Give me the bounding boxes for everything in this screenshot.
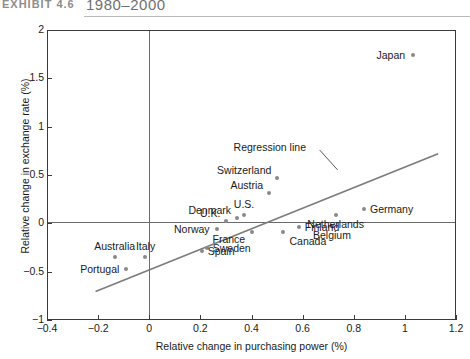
data-point [334, 213, 338, 217]
y-tick-mark [47, 175, 52, 176]
y-tick-mark [47, 30, 52, 31]
data-point-label: U.S. [234, 198, 254, 210]
data-point-label: Japan [377, 49, 406, 61]
x-tick-label: 1 [385, 322, 425, 334]
x-tick-label: −0.4 [27, 322, 67, 334]
x-tick-label: 0.4 [232, 322, 272, 334]
data-point-label: Canada [289, 235, 326, 247]
x-tick-mark [252, 315, 253, 320]
x-tick-label: 0.2 [180, 322, 220, 334]
x-tick-mark [405, 315, 406, 320]
x-tick-mark [200, 315, 201, 320]
data-point-label: Spain [208, 245, 235, 257]
data-point-label: Germany [370, 203, 413, 215]
x-tick-label: 0.8 [334, 322, 374, 334]
data-point-label: U.K. [200, 207, 220, 219]
data-point-label: Switzerland [217, 164, 271, 176]
data-point [297, 225, 301, 229]
y-tick-mark [47, 127, 52, 128]
y-tick-mark [47, 272, 52, 273]
data-point [113, 255, 117, 259]
y-tick-mark [47, 223, 52, 224]
x-tick-label: 0.6 [283, 322, 323, 334]
y-tick-mark [47, 78, 52, 79]
y-tick-mark [47, 320, 52, 321]
data-point [362, 207, 366, 211]
zero-line-vertical [149, 31, 150, 319]
data-point-label: Portugal [80, 263, 119, 275]
zero-line-horizontal [48, 222, 455, 223]
data-point [275, 176, 279, 180]
x-tick-label: −0.2 [78, 322, 118, 334]
regression-line-label: Regression line [234, 141, 306, 153]
x-tick-mark [149, 315, 150, 320]
data-point-label: Australia [94, 240, 135, 252]
x-tick-mark [47, 315, 48, 320]
data-point [250, 230, 254, 234]
data-point-label: Austria [230, 179, 263, 191]
x-tick-mark [354, 315, 355, 320]
data-point-label: Italy [136, 240, 155, 252]
data-point-label: Norway [174, 223, 210, 235]
x-tick-mark [303, 315, 304, 320]
scatter-chart: 21.510.50−0.5−1 −0.4−0.200.20.40.60.811.… [0, 0, 470, 359]
y-axis-title: Relative change in exchange rate (%) [19, 21, 31, 311]
data-point [242, 213, 246, 217]
x-tick-mark [98, 315, 99, 320]
data-point [411, 53, 415, 57]
data-point [124, 267, 128, 271]
x-tick-label: 1.2 [436, 322, 470, 334]
x-tick-label: 0 [129, 322, 169, 334]
data-point-label: Finland [305, 221, 339, 233]
x-axis-title: Relative change in purchasing power (%) [47, 340, 456, 352]
x-tick-mark [456, 315, 457, 320]
